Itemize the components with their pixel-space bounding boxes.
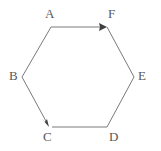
- vertex-label-c: C: [43, 130, 52, 143]
- vertex-label-d: D: [109, 130, 118, 143]
- edge-e-d: [107, 77, 134, 127]
- edge-f-e: [107, 27, 134, 77]
- edge-c-b: [22, 77, 47, 123]
- vertex-label-f: F: [108, 7, 115, 20]
- edge-b-a: [22, 27, 51, 77]
- vertex-label-b: B: [9, 69, 18, 82]
- hexagon-diagram: A F E D C B: [0, 0, 161, 151]
- arrowhead-a-to-f: [99, 23, 107, 31]
- vertex-label-e: E: [138, 69, 146, 82]
- hexagon-svg: [0, 0, 161, 151]
- vertex-label-a: A: [45, 7, 54, 20]
